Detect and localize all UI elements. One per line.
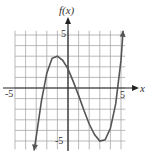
- function-graph: f(x) x -5 5 5 -5: [0, 0, 152, 160]
- y-max-tick-label: 5: [61, 28, 66, 39]
- x-axis-arrow-icon: [132, 85, 139, 91]
- x-axis-label: x: [139, 82, 145, 94]
- y-axis-arrow-icon: [65, 17, 71, 24]
- x-max-tick-label: 5: [120, 89, 125, 100]
- x-min-tick-label: -5: [5, 88, 13, 99]
- y-axis-label: f(x): [59, 4, 75, 17]
- y-min-tick-label: -5: [55, 135, 63, 146]
